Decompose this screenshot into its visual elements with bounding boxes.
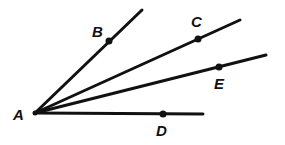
point-label-c: C [191,13,203,30]
point-e [216,64,223,71]
point-b [106,38,113,45]
ray-ad [35,113,203,114]
ray-ab [35,10,142,113]
point-d [160,111,167,118]
diagram-svg: A BCED [0,0,285,145]
ray-ae [35,55,266,113]
point-label-b: B [92,23,103,40]
vertex-point-a [33,111,38,116]
ray-ac [35,20,240,113]
angle-rays-diagram: A BCED [0,0,285,145]
vertex-label-a: A [12,106,24,123]
point-c [195,36,202,43]
rays [35,10,266,114]
point-label-d: D [156,122,167,139]
point-label-e: E [214,75,225,92]
